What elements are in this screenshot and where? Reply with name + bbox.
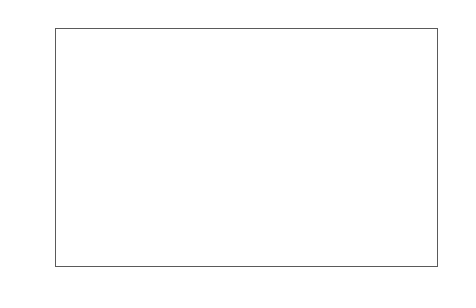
plot-svg	[56, 29, 437, 266]
plot-area	[55, 28, 438, 267]
bottom-axis	[0, 268, 476, 280]
top-axis	[0, 14, 476, 26]
chart-root	[0, 0, 476, 308]
